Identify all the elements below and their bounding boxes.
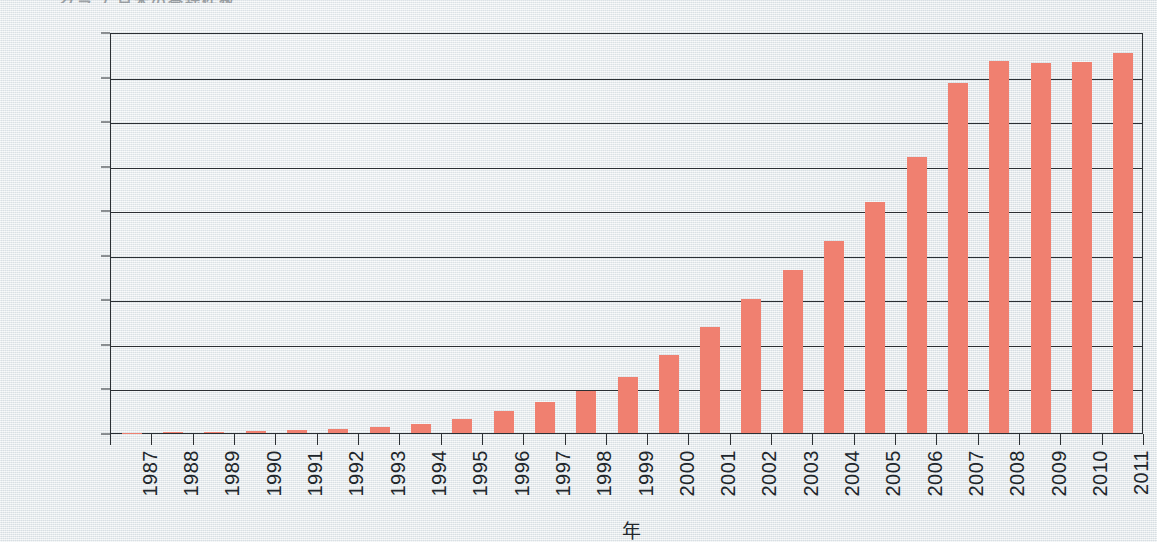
x-axis-tick-mark bbox=[854, 434, 855, 445]
bar bbox=[741, 299, 761, 433]
plot-area bbox=[110, 33, 1143, 434]
y-axis-tick-mark bbox=[101, 211, 110, 212]
y-axis-tick-mark bbox=[101, 122, 110, 123]
x-axis-tick-label: 1995 bbox=[469, 450, 492, 497]
x-axis-tick-mark bbox=[482, 434, 483, 445]
x-axis-tick-mark bbox=[1019, 434, 1020, 445]
x-axis-tick-mark bbox=[895, 434, 896, 445]
bar bbox=[618, 377, 638, 433]
x-axis-tick-label: 2005 bbox=[882, 450, 905, 497]
x-axis-tick-mark bbox=[275, 434, 276, 445]
x-axis-tick-label: 1991 bbox=[304, 450, 327, 497]
x-axis-tick-label: 2011 bbox=[1130, 450, 1153, 495]
y-axis-tick-mark bbox=[101, 434, 110, 435]
x-axis-tick-label: 2006 bbox=[924, 450, 947, 497]
x-axis-title: 年 bbox=[110, 516, 1143, 542]
y-axis-tick-mark bbox=[101, 166, 110, 167]
x-axis-tick-label: 2009 bbox=[1048, 450, 1071, 497]
bar bbox=[287, 430, 307, 433]
x-axis-tick-mark bbox=[1060, 434, 1061, 445]
x-axis-tick-mark bbox=[1143, 434, 1144, 445]
bar bbox=[204, 432, 224, 433]
x-axis-tick-mark bbox=[399, 434, 400, 445]
bar bbox=[494, 411, 514, 433]
x-axis-tick-label: 2008 bbox=[1006, 450, 1029, 497]
x-axis-tick-label: 1994 bbox=[428, 450, 451, 497]
x-axis-tick-mark bbox=[193, 434, 194, 445]
x-axis-tick-mark bbox=[936, 434, 937, 445]
bar bbox=[246, 431, 266, 433]
x-axis-tick-label: 1997 bbox=[552, 450, 575, 497]
page-title: グラフ 日本の登録件数 bbox=[60, 0, 236, 3]
x-axis-title-text: 年 bbox=[622, 516, 641, 542]
x-axis-tick-mark bbox=[730, 434, 731, 445]
x-axis-tick-mark bbox=[317, 434, 318, 445]
bars-layer bbox=[111, 34, 1142, 433]
bar bbox=[328, 429, 348, 433]
bar bbox=[783, 270, 803, 433]
y-axis-tick-mark bbox=[101, 33, 110, 34]
x-axis-tick-label: 2000 bbox=[676, 450, 699, 497]
x-axis-tick-label: 2003 bbox=[800, 450, 823, 497]
x-axis-tick-label: 1989 bbox=[221, 450, 244, 497]
x-axis-tick-label: 1990 bbox=[263, 450, 286, 497]
x-axis-tick-label: 2010 bbox=[1089, 450, 1112, 497]
bar-chart: グラフ 日本の登録件数 18,00016,00014,00012,00010,0… bbox=[0, 0, 1157, 542]
x-axis-tick-mark bbox=[978, 434, 979, 445]
bar bbox=[535, 402, 555, 433]
x-axis-tick-mark bbox=[151, 434, 152, 445]
y-axis-tick-mark bbox=[101, 344, 110, 345]
bar bbox=[659, 355, 679, 433]
bar bbox=[824, 241, 844, 433]
x-axis-tick-mark bbox=[110, 434, 111, 445]
bar bbox=[989, 61, 1009, 433]
bar bbox=[948, 83, 968, 433]
x-axis-tick-mark bbox=[647, 434, 648, 445]
bar bbox=[452, 419, 472, 433]
bar bbox=[1072, 62, 1092, 433]
x-axis-tick-label: 2004 bbox=[841, 450, 864, 497]
x-axis-tick-label: 1992 bbox=[345, 450, 368, 497]
bar bbox=[1113, 53, 1133, 433]
y-axis-tick-mark bbox=[101, 389, 110, 390]
x-axis-tick-label: 1987 bbox=[139, 450, 162, 497]
x-axis-tick-mark bbox=[606, 434, 607, 445]
x-axis-tick-label: 1993 bbox=[387, 450, 410, 497]
y-axis-tick-mark bbox=[101, 255, 110, 256]
x-axis-tick-label: 1999 bbox=[635, 450, 658, 497]
bar bbox=[907, 157, 927, 433]
x-axis-tick-mark bbox=[565, 434, 566, 445]
bar bbox=[1031, 63, 1051, 433]
x-axis-tick-mark bbox=[441, 434, 442, 445]
bar bbox=[163, 432, 183, 433]
bar bbox=[411, 424, 431, 433]
x-axis-tick-mark bbox=[523, 434, 524, 445]
x-axis-tick-mark bbox=[771, 434, 772, 445]
x-axis-tick-label: 2001 bbox=[717, 450, 740, 497]
y-axis-tick-mark bbox=[101, 77, 110, 78]
bar bbox=[865, 202, 885, 433]
x-axis-tick-label: 1996 bbox=[511, 450, 534, 497]
x-axis-tick-mark bbox=[358, 434, 359, 445]
x-axis-tick-label: 2007 bbox=[965, 450, 988, 497]
bar bbox=[370, 427, 390, 433]
x-axis-tick-label: 1988 bbox=[180, 450, 203, 497]
x-axis-tick-mark bbox=[688, 434, 689, 445]
x-axis-tick-mark bbox=[812, 434, 813, 445]
x-axis-tick-mark bbox=[1102, 434, 1103, 445]
y-axis-tick-mark bbox=[101, 300, 110, 301]
x-axis-tick-label: 1998 bbox=[593, 450, 616, 497]
x-axis-tick-mark bbox=[234, 434, 235, 445]
bar bbox=[700, 327, 720, 433]
bar bbox=[576, 391, 596, 433]
x-axis: 年 19871988198919901991199219931994199519… bbox=[110, 434, 1143, 542]
x-axis-tick-label: 2002 bbox=[758, 450, 781, 497]
